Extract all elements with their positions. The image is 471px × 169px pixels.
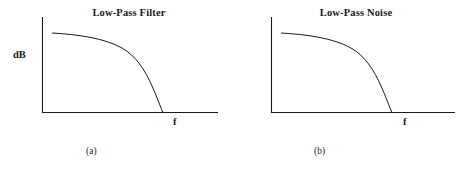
panel-a: Low-Pass Filter dB f (a) <box>0 0 236 169</box>
figure-two-panel-lowpass: Low-Pass Filter dB f (a) Low-Pass Noise … <box>0 0 471 169</box>
response-curve-a <box>52 33 163 113</box>
plot-area-b <box>229 0 465 169</box>
y-axis-label-a: dB <box>13 48 26 61</box>
panel-b: Low-Pass Noise f (b) <box>229 0 465 169</box>
panel-title-a: Low-Pass Filter <box>0 6 236 19</box>
panel-title-b: Low-Pass Noise <box>229 6 465 19</box>
panel-caption-b: (b) <box>314 145 325 157</box>
panel-caption-a: (a) <box>86 145 97 157</box>
x-axis-label-a: f <box>173 115 177 128</box>
plot-area-a <box>0 0 236 169</box>
x-axis-label-b: f <box>403 115 407 128</box>
response-curve-b <box>281 33 392 113</box>
